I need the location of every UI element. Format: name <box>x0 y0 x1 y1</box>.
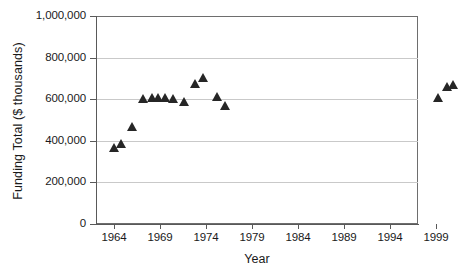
y-axis-line <box>96 16 97 225</box>
data-point <box>116 139 126 148</box>
data-point <box>433 93 443 102</box>
x-axis-tick-label: 1969 <box>138 231 182 243</box>
data-point <box>179 97 189 106</box>
data-point <box>220 101 230 110</box>
y-axis-tick-label: 1,000,000 <box>0 10 86 22</box>
data-point <box>168 94 178 103</box>
y-axis-tick-label: 0 <box>0 218 86 230</box>
x-axis-line <box>96 224 419 225</box>
data-point <box>198 73 208 82</box>
x-axis-tick-label: 1984 <box>276 231 320 243</box>
x-axis-tick <box>160 224 161 229</box>
y-axis-title: Funding Total ($ thousands) <box>11 21 25 221</box>
x-axis-tick-label: 1999 <box>414 231 458 243</box>
x-axis-tick <box>344 224 345 229</box>
x-axis-tick-label: 1979 <box>230 231 274 243</box>
y-axis-tick-label: 200,000 <box>0 176 86 188</box>
x-axis-tick-label: 1994 <box>368 231 412 243</box>
y-axis-tick-label: 600,000 <box>0 93 86 105</box>
x-axis-tick-label: 1989 <box>322 231 366 243</box>
gridline <box>96 58 418 59</box>
gridline <box>96 182 418 183</box>
gridline <box>96 141 418 142</box>
data-point <box>448 80 458 89</box>
x-axis-tick <box>390 224 391 229</box>
data-point <box>212 92 222 101</box>
x-axis-title: Year <box>96 252 418 266</box>
data-point <box>127 122 137 131</box>
x-axis-tick-label: 1974 <box>184 231 228 243</box>
x-axis-tick <box>298 224 299 229</box>
x-axis-tick <box>114 224 115 229</box>
x-axis-tick <box>252 224 253 229</box>
x-axis-tick <box>436 224 437 229</box>
y-axis-tick-label: 400,000 <box>0 135 86 147</box>
x-axis-tick-label: 1964 <box>92 231 136 243</box>
x-axis-tick <box>206 224 207 229</box>
y-axis-tick-label: 800,000 <box>0 52 86 64</box>
plot-area <box>96 16 418 224</box>
